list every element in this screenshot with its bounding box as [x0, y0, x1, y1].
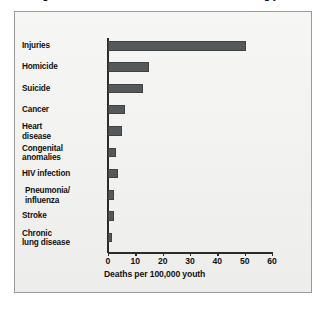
x-axis-tick	[245, 252, 246, 256]
x-axis-tick	[272, 252, 273, 256]
x-axis-tick	[108, 252, 109, 256]
bar-pneumonia-influenza[interactable]	[108, 190, 114, 200]
bar-heart-disease[interactable]	[108, 126, 122, 136]
category-label-line1: Congenital	[22, 144, 63, 153]
category-label: Suicide	[22, 84, 114, 93]
bar-row: Chronic lung disease	[0, 232, 334, 253]
x-axis-tick	[135, 252, 136, 256]
bar-row: Congenital anomalies	[0, 147, 334, 168]
x-axis-title: Deaths per 100,000 youth	[104, 269, 205, 279]
bar-suicide[interactable]	[108, 84, 143, 94]
category-label-line1: HIV infection	[22, 169, 70, 178]
category-label-line2: lung disease	[22, 238, 114, 247]
x-axis-tick-label: 50	[233, 256, 257, 266]
category-label: Homicide	[22, 62, 114, 71]
bar-row: Suicide	[0, 83, 334, 104]
bar-row: Homicide	[0, 61, 334, 82]
category-label-line1: Heart	[22, 122, 42, 131]
figure-container: Figure 1. Death rates for selected cause…	[0, 0, 334, 313]
category-label-line1: Pneumonia/	[25, 186, 70, 195]
category-label: Cancer	[22, 105, 114, 114]
category-label-line1: Cancer	[22, 105, 49, 114]
bar-homicide[interactable]	[108, 62, 149, 72]
bar-congenital-anomalies[interactable]	[108, 148, 116, 158]
x-axis-tick-label: 30	[178, 256, 202, 266]
x-axis-tick-label: 20	[151, 256, 175, 266]
category-label-line1: Injuries	[22, 41, 50, 50]
x-axis-tick-label: 40	[205, 256, 229, 266]
category-label: Stroke	[22, 211, 114, 220]
x-axis-tick	[163, 252, 164, 256]
category-label-line2: disease	[22, 132, 114, 141]
bar-chronic-lung-disease[interactable]	[108, 233, 112, 243]
bar-hiv-infection[interactable]	[108, 169, 118, 179]
bar-stroke[interactable]	[108, 211, 114, 221]
x-axis-tick-label: 0	[96, 256, 120, 266]
category-label-line1: Homicide	[22, 62, 58, 71]
category-label-line2: influenza	[25, 196, 117, 205]
x-axis-tick-label: 60	[260, 256, 284, 266]
category-label: Pneumonia/ influenza	[25, 186, 117, 205]
category-label: Heart disease	[22, 122, 114, 141]
x-axis-tick	[190, 252, 191, 256]
category-label-line1: Suicide	[22, 84, 50, 93]
category-label-line2: anomalies	[22, 153, 114, 162]
category-label: Congenital anomalies	[22, 144, 114, 163]
category-label-line1: Chronic	[22, 229, 52, 238]
x-axis-tick	[217, 252, 218, 256]
plot-area: Injuries Homicide Suicide Cancer	[0, 0, 334, 313]
category-label-line1: Stroke	[22, 211, 47, 220]
category-label: Injuries	[22, 41, 114, 50]
bar-injuries[interactable]	[108, 41, 246, 51]
x-axis-tick-label: 10	[123, 256, 147, 266]
category-label: HIV infection	[22, 169, 114, 178]
bar-row: Injuries	[0, 40, 334, 61]
bar-cancer[interactable]	[108, 105, 125, 115]
bar-row: Pneumonia/ influenza	[0, 189, 334, 210]
category-label: Chronic lung disease	[22, 229, 114, 248]
